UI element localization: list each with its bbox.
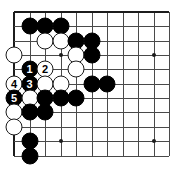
star-point bbox=[59, 139, 63, 143]
stone-black[interactable] bbox=[68, 90, 85, 107]
grid-line-horizontal bbox=[14, 127, 169, 128]
go-diagram: 12435 bbox=[0, 0, 187, 176]
grid-line-vertical bbox=[169, 12, 170, 156]
stone-black[interactable] bbox=[21, 18, 38, 35]
go-board[interactable]: 12435 bbox=[0, 0, 187, 176]
stone-white[interactable] bbox=[6, 118, 23, 135]
stone-white[interactable] bbox=[52, 32, 69, 49]
stone-black[interactable] bbox=[21, 104, 38, 121]
stone-black[interactable] bbox=[83, 75, 100, 92]
stone-white[interactable] bbox=[37, 32, 54, 49]
stone-black[interactable] bbox=[52, 90, 69, 107]
star-point bbox=[152, 53, 156, 57]
stone-black[interactable] bbox=[99, 75, 116, 92]
stone-black[interactable] bbox=[37, 104, 54, 121]
stone-white[interactable] bbox=[6, 47, 23, 64]
star-point bbox=[152, 139, 156, 143]
grid-line-horizontal bbox=[14, 11, 169, 13]
star-point bbox=[59, 53, 63, 57]
stone-white[interactable] bbox=[68, 61, 85, 78]
stone-black[interactable] bbox=[83, 47, 100, 64]
stone-black[interactable] bbox=[21, 147, 38, 164]
